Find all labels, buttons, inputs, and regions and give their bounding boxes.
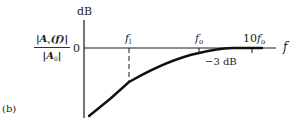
10fo-subscript: o xyxy=(261,38,265,46)
numerator-symbol: |A xyxy=(36,33,47,44)
fraction-numerator: |Av(f)| xyxy=(34,33,70,46)
denominator-symbol: |A xyxy=(43,50,54,61)
fl-subscript: l xyxy=(129,38,131,46)
x-axis-label: f xyxy=(283,41,287,53)
numerator-argument: (f)| xyxy=(51,33,68,44)
denominator-close: | xyxy=(58,50,62,61)
x-tick-label-fl: fl xyxy=(125,33,131,46)
minus-3db-annotation: −3 dB xyxy=(205,57,237,67)
fraction-denominator: |A0| xyxy=(34,49,70,62)
y-axis-zero-label: 0 xyxy=(73,43,80,54)
panel-label: (b) xyxy=(2,104,16,114)
10fo-prefix: 10 xyxy=(243,32,257,45)
fo-subscript: o xyxy=(199,38,203,46)
x-tick-label-fo: fo xyxy=(195,33,203,46)
x-tick-label-10fo: 10fo xyxy=(243,33,265,46)
fraction-bar xyxy=(34,47,70,48)
y-axis-quantity-fraction: |Av(f)| |A0| xyxy=(34,33,70,62)
y-axis-unit-label: dB xyxy=(77,6,92,17)
